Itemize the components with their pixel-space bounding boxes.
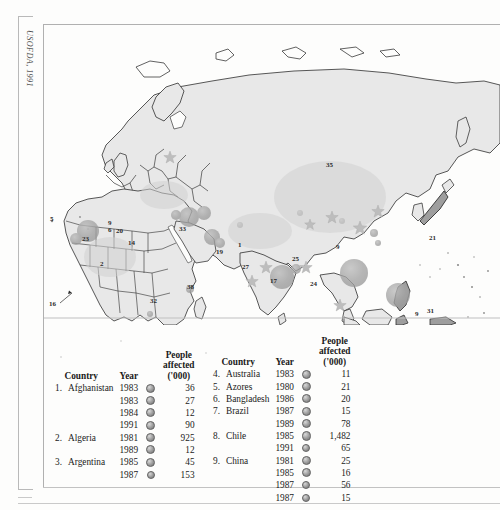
row-people-affected: 12 (160, 407, 198, 419)
row-country (223, 442, 272, 454)
svg-text:21: 21 (429, 234, 437, 242)
row-index (46, 419, 65, 431)
legend-body-left: 1.Afghanistan1983361983271984121991902.A… (46, 382, 198, 481)
svg-text:1: 1 (238, 241, 242, 249)
row-year: 1986 (272, 393, 297, 405)
row-year: 1991 (272, 442, 297, 454)
svg-text:32: 32 (150, 297, 158, 305)
legend-header-row-right: Country Year People affected ('000) (204, 336, 353, 368)
row-country (223, 418, 272, 430)
row-year: 1981 (116, 432, 141, 444)
header-affected-line3: ('000) (163, 371, 195, 381)
row-year: 1989 (116, 444, 141, 456)
row-year: 1984 (116, 407, 141, 419)
header-affected-line3: ('000) (319, 357, 351, 367)
row-magnitude-dot (297, 467, 316, 479)
row-magnitude-dot (141, 419, 160, 431)
row-year: 1991 (116, 419, 141, 431)
row-index: 2. (46, 432, 65, 444)
header-country-left: Country (46, 350, 116, 382)
header-affected-line1: People (319, 336, 351, 346)
sulawesi (396, 315, 408, 325)
row-magnitude-dot (141, 456, 160, 468)
svg-text:5: 5 (50, 215, 54, 223)
row-magnitude-dot (141, 432, 160, 444)
header-affected-line2: affected (319, 346, 351, 356)
row-index: 5. (204, 381, 223, 393)
row-people-affected: 15 (316, 405, 354, 417)
row-magnitude-dot (141, 469, 160, 481)
scan-speck (205, 352, 207, 354)
legend-row: 2.Algeria1981925 (46, 432, 198, 444)
novaya-zemlya (282, 47, 306, 59)
legend-row: 6.Bangladesh198620 (204, 393, 353, 405)
row-country (65, 469, 116, 481)
japan-islands (420, 191, 448, 225)
row-year: 1987 (272, 405, 297, 417)
row-index: 1. (46, 382, 65, 394)
row-year: 1983 (272, 368, 297, 380)
header-affected-line2: affected (163, 360, 195, 370)
row-country (65, 395, 116, 407)
row-year: 1989 (272, 418, 297, 430)
legend-row: 4.Australia198311 (204, 368, 353, 380)
legend-row: 198715 (204, 492, 353, 504)
row-year: 1980 (272, 381, 297, 393)
row-magnitude-dot (297, 368, 316, 380)
row-people-affected: 36 (160, 382, 198, 394)
magnitude-dot-icon (302, 370, 311, 379)
magnitude-dot-icon (302, 407, 311, 416)
row-people-affected: 21 (316, 381, 354, 393)
legend-row: 198756 (204, 479, 353, 491)
row-country: Argentina (65, 456, 116, 468)
row-people-affected: 25 (316, 455, 354, 467)
row-index: 3. (46, 456, 65, 468)
svg-text:38: 38 (187, 283, 195, 291)
arctic-islands-east (340, 47, 364, 57)
row-country: Azores (223, 381, 272, 393)
legend-row: 9.China198125 (204, 455, 353, 467)
header-country-right: Country (204, 336, 272, 368)
legend-row: 198327 (46, 395, 198, 407)
row-people-affected: 90 (160, 419, 198, 431)
row-magnitude-dot (297, 418, 316, 430)
row-magnitude-dot (297, 479, 316, 491)
legend-header-row-left: Country Year People affected ('000) (46, 350, 198, 382)
row-magnitude-dot (141, 382, 160, 394)
legend-table-right: Country Year People affected ('000) 4.Au… (204, 336, 353, 504)
world-map: 5 23 2 16 9 6 20 14 33 19 1 27 17 25 24 … (44, 25, 500, 325)
madagascar (194, 297, 206, 319)
row-year: 1983 (116, 382, 141, 394)
svg-text:25: 25 (292, 255, 300, 263)
header-affected-right: People affected ('000) (316, 336, 354, 368)
svg-text:6: 6 (108, 226, 112, 234)
row-index: 9. (204, 455, 223, 467)
scan-speck (120, 340, 122, 342)
magnitude-dot-icon (147, 471, 155, 479)
svg-text:20: 20 (116, 227, 124, 235)
row-people-affected: 1,482 (316, 430, 354, 442)
row-people-affected: 12 (160, 444, 198, 456)
row-country (65, 444, 116, 456)
magnitude-dot-icon (302, 431, 312, 441)
legend-row: 198912 (46, 444, 198, 456)
source-credit: USOFDA, 1991 (25, 30, 34, 87)
page-frame-left-tick (18, 497, 32, 498)
legend-row: 198412 (46, 407, 198, 419)
row-country: Algeria (65, 432, 116, 444)
row-magnitude-dot (141, 395, 160, 407)
row-magnitude-dot (141, 444, 160, 456)
magnitude-dot-icon (302, 444, 310, 452)
magnitude-dot-icon (146, 421, 155, 430)
row-country: Chile (223, 430, 272, 442)
row-magnitude-dot (297, 405, 316, 417)
legend-row: 8.Chile19851,482 (204, 430, 353, 442)
row-index (46, 407, 65, 419)
row-year: 1985 (272, 467, 297, 479)
row-index (204, 442, 223, 454)
magnitude-dot-icon (302, 481, 310, 489)
magnitude-dot-icon (302, 382, 311, 391)
legend-row: 198978 (204, 418, 353, 430)
row-year: 1987 (272, 479, 297, 491)
borneo (362, 309, 392, 325)
